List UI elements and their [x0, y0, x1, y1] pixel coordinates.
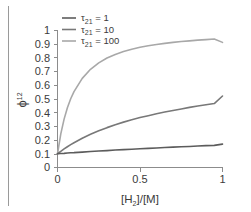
y-tick-labels: 1 0.9 0.8 0.7 0.6 0.5 0.4 0.3 0.2 0.1 0: [35, 24, 50, 173]
x-tick-labels: 0 0.5 1: [54, 173, 225, 185]
y-tick-label: 0: [44, 161, 50, 173]
legend-label-0: τ21 = 1: [81, 12, 109, 24]
legend-label-1: τ21 = 10: [81, 24, 114, 36]
legend-label-2: τ21 = 100: [81, 35, 119, 47]
y-tick-label: 1: [44, 24, 50, 36]
x-axis-title: [H2]/[M]: [121, 193, 159, 207]
y-tick-label: 0.9: [35, 38, 50, 50]
curve-tau21-100: [58, 39, 223, 154]
y-tick-label: 0.8: [35, 52, 50, 64]
curve-tau21-1: [58, 144, 223, 154]
y-tick-label: 0.2: [35, 134, 50, 146]
y-axis-title: ϕ12: [14, 92, 29, 107]
figure-container: 1 0.9 0.8 0.7 0.6 0.5 0.4 0.3 0.2 0.1 0 …: [0, 0, 251, 212]
y-tick-label: 0.3: [35, 120, 50, 132]
y-tick-label: 0.1: [35, 148, 50, 160]
y-tick-label: 0.7: [35, 65, 50, 77]
y-tick-label: 0.4: [35, 107, 50, 119]
data-curves: [58, 39, 223, 154]
curve-tau21-10: [58, 96, 223, 154]
chart-legend: τ21 = 1τ21 = 10τ21 = 100: [62, 12, 119, 47]
x-tick-marks: [58, 168, 223, 172]
y-tick-label: 0.5: [35, 93, 50, 105]
x-tick-label: 0: [54, 173, 60, 185]
x-tick-label: 1: [219, 173, 225, 185]
x-tick-label: 0.5: [132, 173, 147, 185]
chart-plot: 1 0.9 0.8 0.7 0.6 0.5 0.4 0.3 0.2 0.1 0 …: [0, 0, 251, 212]
y-tick-label: 0.6: [35, 79, 50, 91]
y-tick-marks: [54, 30, 58, 167]
